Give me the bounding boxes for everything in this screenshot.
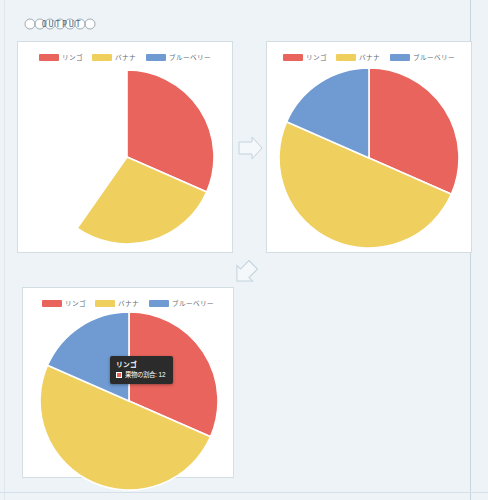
arrow-right-icon: [234, 133, 266, 163]
tooltip-row: 果物の割合: 12: [116, 371, 166, 379]
chart-panel-animating[interactable]: リンゴ バナナ ブルーベリー: [17, 41, 233, 253]
cloud-bubble-icon: OUTPUT: [18, 13, 106, 35]
pie-chart-animating[interactable]: [18, 42, 232, 252]
pie-svg-hover[interactable]: [39, 311, 219, 491]
pie-chart-complete[interactable]: [267, 42, 471, 252]
page-edge-left: [4, 0, 5, 500]
tooltip-swatch-icon: [116, 372, 122, 378]
tooltip-value: 果物の割合: 12: [125, 371, 166, 379]
output-badge-label: OUTPUT: [42, 19, 82, 29]
tooltip-title: リンゴ: [116, 360, 166, 369]
pie-svg-complete[interactable]: [278, 67, 460, 249]
output-badge: OUTPUT: [18, 13, 106, 35]
chart-panel-complete[interactable]: リンゴ バナナ ブルーベリー: [266, 41, 472, 253]
page-edge-bottom: [0, 492, 488, 493]
pie-svg-animating[interactable]: [39, 69, 215, 245]
arrow-diagonal-icon: [226, 256, 262, 292]
chart-tooltip: リンゴ 果物の割合: 12: [110, 356, 173, 384]
